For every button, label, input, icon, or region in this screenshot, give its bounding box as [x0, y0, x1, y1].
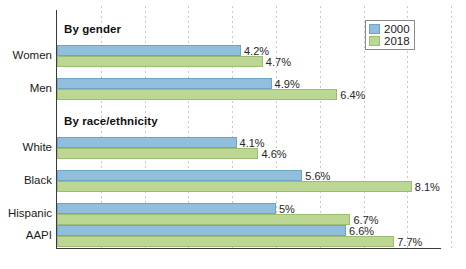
legend-item-2018[interactable]: 2018: [369, 35, 410, 47]
bar-value-label: 4.7%: [266, 56, 291, 68]
category-label: AAPI: [26, 229, 52, 241]
legend-label-2018: 2018: [384, 35, 410, 47]
bar-value-label: 5.6%: [305, 170, 330, 182]
section-heading-gender: By gender: [64, 23, 121, 35]
bar-2018[interactable]: 4.7%: [57, 56, 263, 67]
chart-row: AAPI6.6%7.7%: [0, 225, 466, 249]
section-heading-race: By race/ethnicity: [64, 115, 158, 127]
chart-row: Black5.6%8.1%: [0, 170, 466, 194]
bar-value-label: 6.4%: [340, 89, 365, 101]
chart-row: White4.1%4.6%: [0, 137, 466, 161]
bar-2018[interactable]: 6.4%: [57, 89, 337, 100]
bar-2018[interactable]: 7.7%: [57, 236, 394, 247]
legend-swatch-2018-icon: [369, 36, 380, 46]
bar-2000[interactable]: 5.6%: [57, 170, 302, 181]
bar-value-label: 5%: [279, 203, 295, 215]
category-label: Black: [24, 174, 52, 186]
category-label: Hispanic: [8, 207, 52, 219]
bar-value-label: 4.6%: [261, 148, 286, 160]
chart-row: Men4.9%6.4%: [0, 78, 466, 102]
bar-value-label: 8.1%: [415, 181, 440, 193]
legend-item-2000[interactable]: 2000: [369, 23, 410, 35]
bar-chart: By gender By race/ethnicity Women4.2%4.7…: [0, 0, 466, 269]
bar-2018[interactable]: 6.7%: [57, 214, 350, 225]
bar-value-label: 7.7%: [397, 236, 422, 248]
bar-2018[interactable]: 4.6%: [57, 148, 258, 159]
bar-2000[interactable]: 4.2%: [57, 45, 241, 56]
category-label: Women: [13, 49, 52, 61]
bar-value-label: 6.6%: [349, 225, 374, 237]
legend-swatch-2000-icon: [369, 24, 380, 34]
chart-legend: 2000 2018: [365, 20, 415, 50]
category-label: White: [23, 141, 52, 153]
bar-2018[interactable]: 8.1%: [57, 181, 412, 192]
category-label: Men: [30, 82, 52, 94]
bar-2000[interactable]: 4.9%: [57, 78, 272, 89]
bar-2000[interactable]: 5%: [57, 203, 276, 214]
bar-2000[interactable]: 4.1%: [57, 137, 237, 148]
bar-value-label: 4.9%: [275, 78, 300, 90]
chart-row: Hispanic5%6.7%: [0, 203, 466, 227]
legend-label-2000: 2000: [384, 23, 410, 35]
bar-2000[interactable]: 6.6%: [57, 225, 346, 236]
